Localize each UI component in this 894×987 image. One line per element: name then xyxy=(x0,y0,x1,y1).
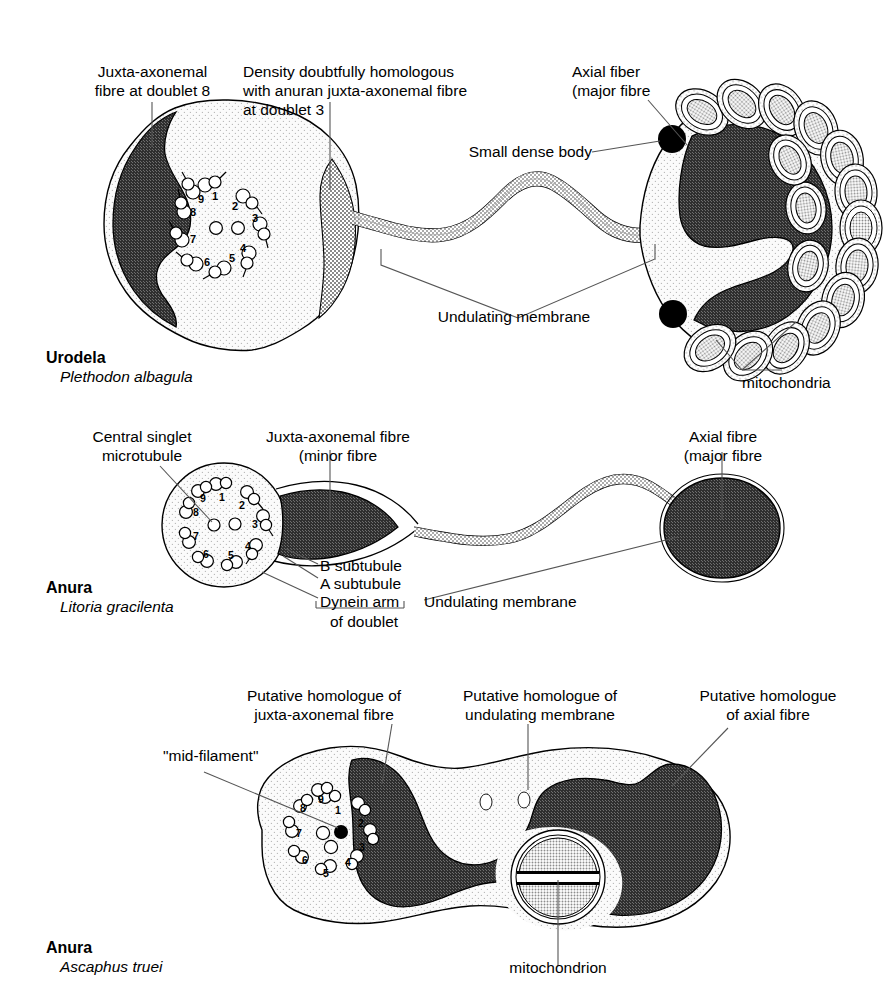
leader-small-dense-body xyxy=(592,141,660,152)
leader-dynein-arm xyxy=(262,572,318,598)
label-of-doublet: of doublet xyxy=(330,612,398,631)
species-plethodon-albagula: Plethodon albagula xyxy=(46,367,193,386)
label-b-subtubule: B subtubule xyxy=(320,556,402,575)
label-density-doubtfully-homologous: Density doubtfully homologous with anura… xyxy=(243,62,553,119)
label-central-singlet-microtubule: Central singlet microtubule xyxy=(58,427,226,465)
ascaphus-vesicle-left xyxy=(480,794,492,810)
label-juxta-axonemal-minor: Juxta-axonemal fibre (minor fibre xyxy=(238,427,438,465)
label-axial-fibre-major: Axial fibre (major fibre xyxy=(634,427,812,465)
svg-text:4: 4 xyxy=(240,242,247,254)
svg-text:6: 6 xyxy=(204,256,210,268)
label-putative-undulating-membrane: Putative homologue of undulating membran… xyxy=(438,686,642,724)
label-putative-juxta-axonemal: Putative homologue of juxta-axonemal fib… xyxy=(218,686,430,724)
svg-text:6: 6 xyxy=(203,548,209,560)
svg-text:1: 1 xyxy=(335,804,341,816)
svg-text:5: 5 xyxy=(323,867,329,879)
label-putative-axial-fibre: Putative homologue of axial fibre xyxy=(670,686,866,724)
svg-text:9: 9 xyxy=(318,793,324,805)
label-undulating-membrane-litoria: Undulating membrane xyxy=(424,592,577,611)
svg-text:3: 3 xyxy=(252,518,258,530)
figure-canvas: 1 2 3 4 5 6 7 8 9 xyxy=(0,0,894,987)
svg-text:6: 6 xyxy=(302,854,308,866)
label-small-dense-body: Small dense body xyxy=(424,142,592,161)
taxon-group-urodela: Urodela xyxy=(46,348,193,367)
label-mitochondrion: mitochondrion xyxy=(478,958,638,977)
svg-text:3: 3 xyxy=(359,841,365,853)
svg-text:8: 8 xyxy=(190,206,196,218)
label-axial-fiber: Axial fiber (major fibre xyxy=(572,62,762,100)
taxon-group-anura-litoria: Anura xyxy=(46,578,174,597)
label-juxta-axonemal-doublet8: Juxta-axonemal fibre at doublet 8 xyxy=(60,62,245,100)
species-ascaphus-truei: Ascaphus truei xyxy=(46,957,163,976)
svg-text:7: 7 xyxy=(193,530,199,542)
svg-text:7: 7 xyxy=(296,827,302,839)
svg-text:5: 5 xyxy=(229,252,235,264)
svg-text:7: 7 xyxy=(190,233,196,245)
leader-undulating-membrane-2 xyxy=(424,537,678,600)
label-mitochondria: mitochondria xyxy=(742,373,882,392)
label-undulating-membrane-urodela: Undulating membrane xyxy=(408,307,620,326)
urodela-small-dense-body-bottom xyxy=(659,300,687,328)
svg-text:9: 9 xyxy=(200,492,206,504)
taxon-anura-ascaphus: Anura Ascaphus truei xyxy=(46,938,163,976)
svg-text:5: 5 xyxy=(228,549,234,561)
urodela-undulating-membrane xyxy=(352,172,648,243)
label-a-subtubule: A subtubule xyxy=(320,574,401,593)
svg-text:4: 4 xyxy=(345,856,351,868)
ascaphus-vesicle-right xyxy=(518,792,530,808)
svg-text:1: 1 xyxy=(212,190,218,202)
panel-litoria-graphic: 1 2 3 4 5 6 7 8 9 xyxy=(160,450,784,608)
svg-text:4: 4 xyxy=(245,540,251,552)
litoria-undulating-membrane xyxy=(414,474,694,545)
label-mid-filament: "mid-filament" xyxy=(163,746,258,765)
svg-text:2: 2 xyxy=(239,499,245,511)
taxon-anura-litoria: Anura Litoria gracilenta xyxy=(46,578,174,616)
svg-text:1: 1 xyxy=(219,491,225,503)
taxon-urodela: Urodela Plethodon albagula xyxy=(46,348,193,386)
species-litoria-gracilenta: Litoria gracilenta xyxy=(46,597,174,616)
svg-text:2: 2 xyxy=(232,200,238,212)
panel-ascaphus-graphic: 1 2 3 4 5 6 7 8 9 xyxy=(204,724,730,966)
label-dynein-arm: Dynein arm xyxy=(320,592,399,611)
svg-text:2: 2 xyxy=(358,817,364,829)
litoria-juxta-axonemal-fibre xyxy=(278,490,398,559)
taxon-group-anura-ascaphus: Anura xyxy=(46,938,163,957)
svg-text:9: 9 xyxy=(198,193,204,205)
svg-text:3: 3 xyxy=(252,212,258,224)
